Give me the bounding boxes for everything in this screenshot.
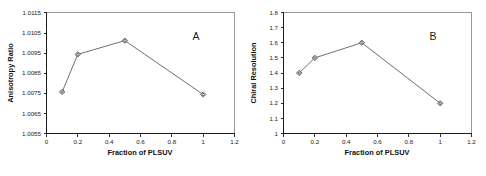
- panel-b-y-ticklabels: 1 1.1 1.2 1.3 1.4 1.5 1.6 1.7 1.8: [269, 9, 278, 137]
- panel-a-x-axis-title: Fraction of PLSUV: [108, 148, 173, 157]
- chart-panel-a: 1.0055 1.0065 1.0075 1.0085 1.0095 1.010…: [0, 0, 243, 176]
- panel-b-ytick-label: 1.1: [269, 115, 278, 122]
- panel-a-xtick-label: 0: [45, 138, 49, 145]
- panel-a-letter: A: [192, 30, 199, 42]
- panel-a-ytick-label: 1.0075: [22, 89, 41, 96]
- panel-b-xtick-label: 0: [282, 138, 286, 145]
- panel-a-y-axis-title: Anisotropy Ratio: [6, 43, 15, 103]
- panel-b-ytick-label: 1.4: [269, 69, 278, 76]
- panel-b-xtick-label: 0.6: [373, 138, 382, 145]
- panel-a-ytick-label: 1.0105: [22, 29, 41, 36]
- panel-a-xtick-label: 0.2: [73, 138, 82, 145]
- panel-b-ytick-label: 1.6: [269, 39, 278, 46]
- data-point-marker-inner: [361, 42, 363, 44]
- panel-b-ytick-label: 1.8: [269, 9, 278, 16]
- panel-a-xtick-label: 0.4: [105, 138, 114, 145]
- data-point-marker-inner: [77, 53, 79, 55]
- data-point-marker-inner: [314, 57, 316, 59]
- panel-b-markers: [296, 40, 442, 106]
- panel-a-xtick-label: 1: [201, 138, 205, 145]
- panel-b-plot-area: [283, 13, 472, 134]
- panel-a-ytick-label: 1.0085: [22, 69, 41, 76]
- panel-b-ytick-label: 1.7: [269, 24, 278, 31]
- panel-b-xtick-label: 1: [438, 138, 442, 145]
- panel-a-y-ticklabels: 1.0055 1.0065 1.0075 1.0085 1.0095 1.010…: [22, 9, 41, 137]
- panel-a-xtick-label: 0.6: [136, 138, 145, 145]
- panel-b-x-ticklabels: 0 0.2 0.4 0.6 0.8 1 1.2: [282, 138, 477, 145]
- panel-a-plot-area: [46, 13, 235, 134]
- panel-b-ytick-label: 1.5: [269, 54, 278, 61]
- panel-b-letter: B: [429, 30, 436, 42]
- chart-panel-b: 1 1.1 1.2 1.3 1.4 1.5 1.6 1.7 1.8 0: [243, 0, 486, 176]
- panel-b-xtick-label: 0.8: [404, 138, 413, 145]
- panel-a-svg: 1.0055 1.0065 1.0075 1.0085 1.0095 1.010…: [0, 0, 243, 176]
- panel-b-ytick-label: 1.2: [269, 99, 278, 106]
- panel-a-xtick-label: 1.2: [230, 138, 239, 145]
- panel-b-y-axis-title: Chiral Resolution: [249, 42, 258, 104]
- panel-b-xtick-label: 0.2: [310, 138, 319, 145]
- figure-container: 1.0055 1.0065 1.0075 1.0085 1.0095 1.010…: [0, 0, 486, 176]
- data-point-marker-inner: [124, 39, 126, 41]
- data-point-marker-inner: [61, 91, 63, 93]
- panel-b-svg: 1 1.1 1.2 1.3 1.4 1.5 1.6 1.7 1.8 0: [243, 0, 486, 176]
- panel-a-series-line: [62, 41, 203, 95]
- panel-a-ytick-label: 1.0095: [22, 49, 41, 56]
- data-point-marker-inner: [439, 102, 441, 104]
- panel-b-xtick-label: 1.2: [467, 138, 476, 145]
- panel-b-xtick-label: 0.4: [342, 138, 351, 145]
- panel-a-ytick-label: 1.0065: [22, 110, 41, 117]
- panel-b-ytick-label: 1: [275, 130, 279, 137]
- panel-a-markers: [59, 38, 205, 97]
- panel-b-series-line: [299, 43, 440, 104]
- panel-a-x-ticklabels: 0 0.2 0.4 0.6 0.8 1 1.2: [45, 138, 240, 145]
- data-point-marker-inner: [298, 72, 300, 74]
- panel-b-x-axis-title: Fraction of PLSUV: [345, 148, 410, 157]
- panel-a-ytick-label: 1.0055: [22, 130, 41, 137]
- panel-a-xtick-label: 0.8: [167, 138, 176, 145]
- panel-b-ytick-label: 1.3: [269, 84, 278, 91]
- data-point-marker-inner: [202, 93, 204, 95]
- panel-a-ytick-label: 1.0115: [23, 9, 42, 16]
